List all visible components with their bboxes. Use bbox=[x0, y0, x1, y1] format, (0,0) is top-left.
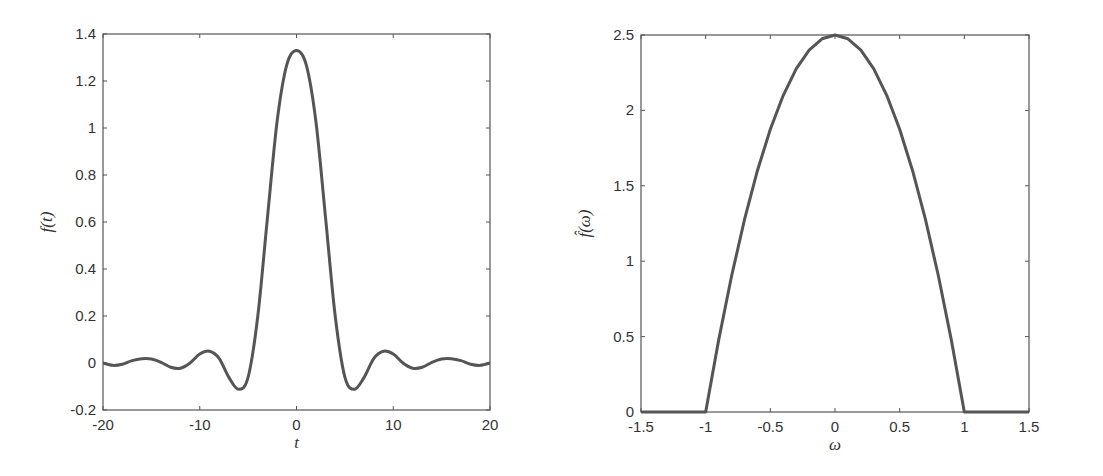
axes-frame bbox=[103, 34, 490, 410]
y-tick-label: 0 bbox=[626, 403, 634, 420]
x-tick-label: -1.5 bbox=[628, 418, 654, 435]
y-tick-label: 1 bbox=[88, 119, 96, 136]
y-tick-label: 1 bbox=[626, 252, 634, 269]
y-tick-label: -0.2 bbox=[70, 401, 96, 418]
x-tick-label: 0.5 bbox=[889, 418, 910, 435]
right-plot-svg: -1.5-1-0.500.511.500.511.522.5ωf̂(ω) bbox=[550, 0, 1103, 476]
data-line bbox=[103, 50, 490, 389]
x-tick-label: -10 bbox=[189, 416, 211, 433]
y-tick-label: 0.6 bbox=[75, 213, 96, 230]
y-tick-label: 0.4 bbox=[75, 260, 96, 277]
x-axis-label: t bbox=[294, 433, 300, 452]
x-tick-label: 0 bbox=[292, 416, 300, 433]
x-tick-label: 0 bbox=[831, 418, 839, 435]
y-tick-label: 0 bbox=[88, 354, 96, 371]
x-axis-label: ω bbox=[829, 435, 841, 454]
x-tick-label: -1 bbox=[699, 418, 712, 435]
y-tick-label: 1.2 bbox=[75, 72, 96, 89]
y-tick-label: 0.8 bbox=[75, 166, 96, 183]
y-tick-label: 0.2 bbox=[75, 307, 96, 324]
right-chart: -1.5-1-0.500.511.500.511.522.5ωf̂(ω) bbox=[550, 0, 1103, 476]
y-tick-label: 1.4 bbox=[75, 25, 96, 42]
left-plot-svg: -20-1001020-0.200.20.40.60.811.21.4tf(t) bbox=[0, 0, 550, 476]
x-tick-label: 10 bbox=[385, 416, 402, 433]
y-axis-label: f̂(ω) bbox=[574, 209, 594, 237]
x-tick-label: 1 bbox=[960, 418, 968, 435]
x-tick-label: 20 bbox=[482, 416, 499, 433]
left-chart: -20-1001020-0.200.20.40.60.811.21.4tf(t) bbox=[0, 0, 550, 476]
x-tick-label: 1.5 bbox=[1019, 418, 1040, 435]
y-tick-label: 2.5 bbox=[613, 26, 634, 43]
y-tick-label: 1.5 bbox=[613, 177, 634, 194]
data-line bbox=[641, 35, 1029, 412]
x-tick-label: -0.5 bbox=[757, 418, 783, 435]
axes-frame bbox=[641, 35, 1029, 412]
y-axis-label: f(t) bbox=[37, 211, 56, 232]
y-tick-label: 2 bbox=[626, 101, 634, 118]
y-tick-label: 0.5 bbox=[613, 328, 634, 345]
x-tick-label: -20 bbox=[92, 416, 114, 433]
